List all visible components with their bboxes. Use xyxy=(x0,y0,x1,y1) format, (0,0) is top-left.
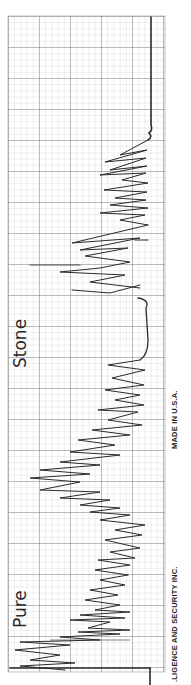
annotation-stone: Stone xyxy=(10,319,30,368)
made-in-label: MADE IN U.S.A. xyxy=(170,390,179,449)
annotation-pure: Pure xyxy=(10,590,30,628)
grid xyxy=(8,16,165,672)
manufacturer-label: .LIGENCE AND SECURITY INC. xyxy=(170,566,179,682)
